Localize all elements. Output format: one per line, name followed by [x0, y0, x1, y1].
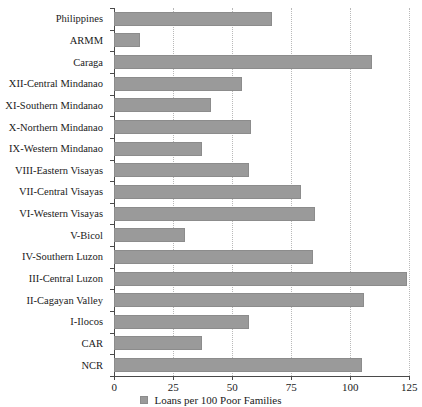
y-axis-label-text: V-Bicol: [70, 230, 103, 241]
bar-chart: PhilippinesARMMCaragaXII-Central Mindana…: [0, 0, 422, 407]
y-axis-label: XII-Central Mindanao: [0, 73, 108, 95]
x-axis-tick-100: [350, 376, 351, 380]
bar: [114, 185, 300, 199]
bar: [114, 77, 241, 91]
bar: [114, 315, 249, 329]
bar-row: [114, 8, 409, 30]
bar-row: [114, 246, 409, 268]
plot-area: [114, 8, 409, 376]
chart-legend: Loans per 100 Poor Families: [0, 394, 422, 406]
bar-row: [114, 51, 409, 73]
bar-row: [114, 159, 409, 181]
bar-row: [114, 224, 409, 246]
y-axis-label: IV-Southern Luzon: [0, 246, 108, 268]
y-axis-label-text: Caraga: [73, 57, 103, 68]
x-axis-tick-label-100: 100: [342, 381, 359, 393]
bar-row: [114, 268, 409, 290]
y-axis-label-text: I-Ilocos: [70, 316, 103, 327]
bar-row: [114, 289, 409, 311]
y-axis-label-text: IV-Southern Luzon: [22, 251, 103, 262]
bar-row: [114, 333, 409, 355]
y-axis-label-text: VII-Central Visayas: [19, 186, 103, 197]
bar-row: [114, 30, 409, 52]
y-axis-label: XI-Southern Mindanao: [0, 95, 108, 117]
gridline-125: [409, 8, 411, 376]
bar: [114, 358, 362, 372]
bar: [114, 12, 272, 26]
bar: [114, 120, 251, 134]
x-axis-tick-125: [409, 376, 410, 380]
x-axis-tick-label-25: 25: [168, 381, 179, 393]
bar-row: [114, 203, 409, 225]
x-axis-tick-0: [114, 376, 115, 380]
bar: [114, 228, 185, 242]
y-axis-label-text: XII-Central Mindanao: [9, 78, 103, 89]
x-axis-tick-25: [173, 376, 174, 380]
y-axis-label-text: X-Northern Mindanao: [9, 122, 103, 133]
bar: [114, 55, 371, 69]
y-axis-label-text: CAR: [81, 338, 103, 349]
y-axis-label: VI-Western Visayas: [0, 203, 108, 225]
bar: [114, 33, 140, 47]
y-axis-label: NCR: [0, 354, 108, 376]
x-axis-tick-50: [232, 376, 233, 380]
bar-row: [114, 73, 409, 95]
x-axis-tick-label-0: 0: [112, 381, 118, 393]
y-axis-label: IX-Western Mindanao: [0, 138, 108, 160]
legend-label: Loans per 100 Poor Families: [154, 394, 281, 406]
y-axis-label-text: XI-Southern Mindanao: [5, 100, 103, 111]
y-axis-label-text: Philippines: [56, 13, 103, 24]
y-axis-label: II-Cagayan Valley: [0, 289, 108, 311]
y-axis-label-text: III-Central Luzon: [29, 273, 103, 284]
y-axis-label: VIII-Eastern Visayas: [0, 159, 108, 181]
y-axis-label-text: VIII-Eastern Visayas: [15, 165, 103, 176]
y-axis-label: V-Bicol: [0, 224, 108, 246]
bar-row: [114, 116, 409, 138]
bar-row: [114, 354, 409, 376]
bar-row: [114, 95, 409, 117]
y-axis-labels: PhilippinesARMMCaragaXII-Central Mindana…: [0, 8, 108, 376]
x-axis-line: [114, 376, 410, 377]
y-axis-label: Caraga: [0, 51, 108, 73]
bar: [114, 336, 201, 350]
x-axis-tick-label-75: 75: [286, 381, 297, 393]
y-axis-label: Philippines: [0, 8, 108, 30]
bar: [114, 163, 249, 177]
bar: [114, 293, 364, 307]
bar-rows: [114, 8, 409, 376]
y-axis-label: VII-Central Visayas: [0, 181, 108, 203]
y-axis-label: ARMM: [0, 30, 108, 52]
y-axis-label: CAR: [0, 333, 108, 355]
y-axis-label-text: NCR: [81, 360, 103, 371]
bar-row: [114, 138, 409, 160]
bar-row: [114, 181, 409, 203]
y-axis-label: I-Ilocos: [0, 311, 108, 333]
bar: [114, 272, 407, 286]
y-axis-label-text: IX-Western Mindanao: [9, 143, 103, 154]
x-axis-tick-label-50: 50: [227, 381, 238, 393]
bar-row: [114, 311, 409, 333]
x-axis-tick-label-125: 125: [401, 381, 418, 393]
legend-swatch-icon: [140, 396, 148, 404]
bar: [114, 98, 211, 112]
y-axis-label: X-Northern Mindanao: [0, 116, 108, 138]
y-axis-label-text: VI-Western Visayas: [19, 208, 103, 219]
y-axis-label: III-Central Luzon: [0, 268, 108, 290]
bar: [114, 207, 315, 221]
bar: [114, 142, 201, 156]
y-axis-label-text: ARMM: [70, 35, 103, 46]
y-axis-label-text: II-Cagayan Valley: [27, 295, 103, 306]
x-axis-tick-75: [291, 376, 292, 380]
bar: [114, 250, 312, 264]
